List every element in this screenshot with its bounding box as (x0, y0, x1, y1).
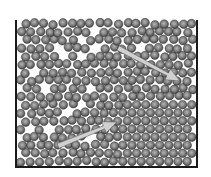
sphere (132, 100, 141, 109)
sphere (32, 85, 41, 94)
sphere (39, 19, 48, 28)
sphere (160, 20, 169, 29)
sphere (151, 85, 160, 94)
sphere (17, 27, 26, 36)
sphere (123, 117, 132, 126)
sphere (72, 125, 81, 134)
sphere (31, 118, 40, 127)
sphere (27, 77, 36, 86)
sphere (81, 44, 90, 53)
sphere (18, 141, 27, 150)
sphere (178, 149, 187, 158)
sphere (110, 142, 119, 151)
sphere (179, 20, 188, 29)
sphere (146, 109, 155, 118)
sphere (72, 77, 81, 86)
sphere (141, 18, 150, 27)
sphere (151, 21, 160, 30)
sphere (77, 19, 86, 28)
sphere (87, 53, 96, 62)
sphere (105, 68, 114, 77)
sphere (159, 35, 168, 44)
sphere (132, 149, 141, 158)
sphere (179, 36, 188, 45)
sphere (30, 101, 39, 110)
sphere (26, 60, 35, 69)
sphere (92, 158, 101, 167)
sphere (170, 35, 179, 44)
sphere (142, 100, 151, 109)
sphere (113, 150, 122, 159)
diagram-canvas (0, 0, 211, 177)
sphere (21, 69, 30, 78)
sphere (37, 27, 46, 36)
sphere (60, 117, 69, 126)
sphere (188, 117, 197, 126)
sphere (132, 85, 141, 94)
sphere (96, 18, 105, 27)
sphere (59, 101, 68, 110)
sphere (16, 125, 25, 134)
sphere (53, 108, 62, 117)
sphere (132, 117, 141, 126)
sphere (37, 60, 46, 69)
sphere (169, 133, 178, 142)
sphere (55, 157, 64, 166)
sphere (187, 68, 196, 77)
sphere (45, 158, 54, 167)
sphere (36, 93, 45, 102)
sphere (137, 125, 146, 134)
sphere (96, 52, 105, 61)
sphere (58, 68, 67, 77)
sphere (137, 109, 146, 118)
sphere (170, 20, 179, 29)
sphere (62, 60, 71, 69)
sphere (21, 118, 30, 127)
sphere (183, 109, 192, 118)
sphere (39, 133, 48, 142)
sphere (73, 110, 82, 119)
sphere (160, 117, 169, 126)
sphere (45, 44, 54, 53)
sphere (165, 157, 174, 166)
sphere (73, 60, 82, 69)
sphere (54, 29, 63, 38)
sphere (151, 149, 160, 158)
sphere (151, 117, 160, 126)
sphere (165, 125, 174, 134)
sphere (87, 69, 96, 78)
sphere (50, 52, 59, 61)
sphere (85, 19, 94, 28)
sphere (184, 28, 193, 37)
sphere (108, 28, 117, 37)
sphere (26, 28, 35, 37)
sphere (54, 92, 63, 101)
sphere (114, 20, 123, 29)
sphere (81, 142, 90, 151)
sphere (73, 27, 82, 36)
sphere (16, 109, 25, 118)
sphere (165, 141, 174, 150)
sphere (146, 76, 155, 85)
sphere (146, 157, 155, 166)
sphere (155, 157, 164, 166)
sphere (40, 117, 49, 126)
sphere (183, 44, 192, 53)
sphere (174, 125, 183, 134)
sphere (26, 158, 35, 167)
sphere (17, 44, 26, 53)
sphere (169, 100, 178, 109)
sphere (82, 77, 91, 86)
sphere (40, 53, 49, 62)
sphere (37, 107, 46, 116)
sphere (91, 77, 100, 86)
sphere (117, 29, 126, 38)
sphere (174, 141, 183, 150)
sphere (154, 43, 163, 52)
sphere (137, 141, 146, 150)
sphere (28, 110, 37, 119)
sphere (90, 92, 99, 101)
sphere-pack (16, 18, 197, 166)
sphere (72, 93, 81, 102)
sphere (132, 133, 141, 142)
